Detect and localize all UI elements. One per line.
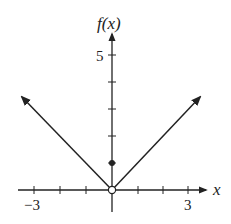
open-point-0-0 <box>108 186 115 193</box>
y-tick-label-5: 5 <box>96 48 104 64</box>
graph-canvas: f(x) x 5 −3 3 <box>0 0 231 224</box>
y-axis-label: f(x) <box>97 14 121 33</box>
x-tick-label-neg3: −3 <box>24 197 40 213</box>
right-branch <box>112 97 200 190</box>
x-axis-label: x <box>212 180 221 199</box>
filled-point-0-1 <box>109 160 115 166</box>
x-tick-label-3: 3 <box>184 197 192 213</box>
left-branch <box>22 97 112 190</box>
function-graph: f(x) x 5 −3 3 <box>0 0 231 224</box>
